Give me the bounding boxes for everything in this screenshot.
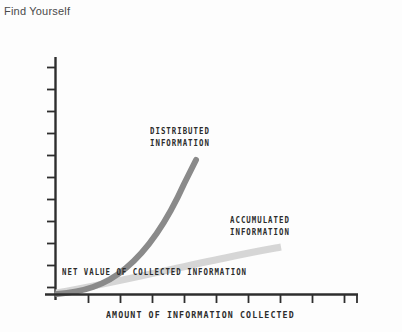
x-axis xyxy=(45,295,358,304)
annotation-net-value: NET VALUE OF COLLECTED INFORMATION xyxy=(62,267,247,279)
series-label-accumulated-line-2: INFORMATION xyxy=(230,227,290,239)
series-label-distributed-line-2: INFORMATION xyxy=(150,138,210,150)
chart-page: Find Yourself xyxy=(0,0,402,332)
y-axis xyxy=(47,57,56,300)
series-label-distributed-line-1: DISTRIBUTED xyxy=(150,126,210,138)
x-axis-label: AMOUNT OF INFORMATION COLLECTED xyxy=(106,309,295,321)
series-label-distributed: DISTRIBUTED INFORMATION xyxy=(150,126,210,150)
chart-svg xyxy=(0,0,402,332)
chart-figure xyxy=(0,0,402,332)
series-label-accumulated: ACCUMULATED INFORMATION xyxy=(230,215,290,239)
series-label-accumulated-line-1: ACCUMULATED xyxy=(230,215,290,227)
